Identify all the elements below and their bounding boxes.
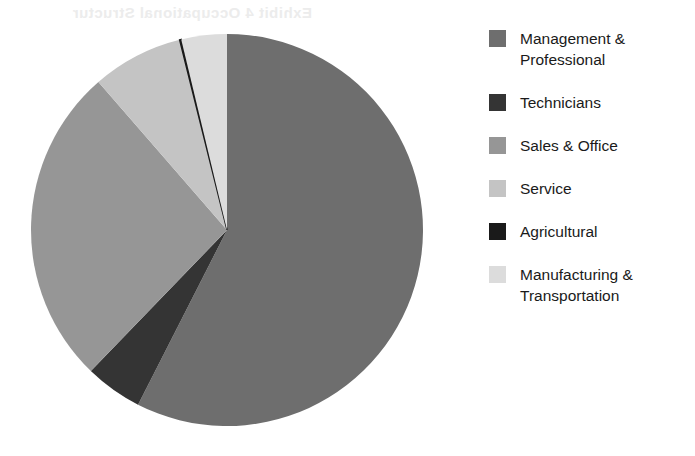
legend-item-manufacturing-transportation[interactable]: Manufacturing & Transportation xyxy=(489,264,695,306)
pie-slice-group xyxy=(31,34,423,426)
legend-swatch-icon xyxy=(489,94,506,111)
legend-item-management-professional[interactable]: Management & Professional xyxy=(489,28,695,70)
legend-item-technicians[interactable]: Technicians xyxy=(489,92,695,113)
legend-label: Manufacturing & Transportation xyxy=(520,264,695,306)
legend-swatch-icon xyxy=(489,30,506,47)
legend-label: Agricultural xyxy=(520,221,598,242)
legend-label: Service xyxy=(520,178,572,199)
pie-chart-svg xyxy=(0,0,460,456)
legend-swatch-icon xyxy=(489,223,506,240)
legend-swatch-icon xyxy=(489,137,506,154)
legend-swatch-icon xyxy=(489,266,506,283)
pie-chart xyxy=(0,0,460,456)
chart-page: Exhibit 4 Occupational Structure Managem… xyxy=(0,0,695,456)
legend-item-agricultural[interactable]: Agricultural xyxy=(489,221,695,242)
legend-label: Sales & Office xyxy=(520,135,618,156)
legend-label: Technicians xyxy=(520,92,601,113)
chart-legend: Management & Professional Technicians Sa… xyxy=(489,28,695,328)
legend-item-sales-office[interactable]: Sales & Office xyxy=(489,135,695,156)
legend-item-service[interactable]: Service xyxy=(489,178,695,199)
legend-label: Management & Professional xyxy=(520,28,695,70)
legend-swatch-icon xyxy=(489,180,506,197)
